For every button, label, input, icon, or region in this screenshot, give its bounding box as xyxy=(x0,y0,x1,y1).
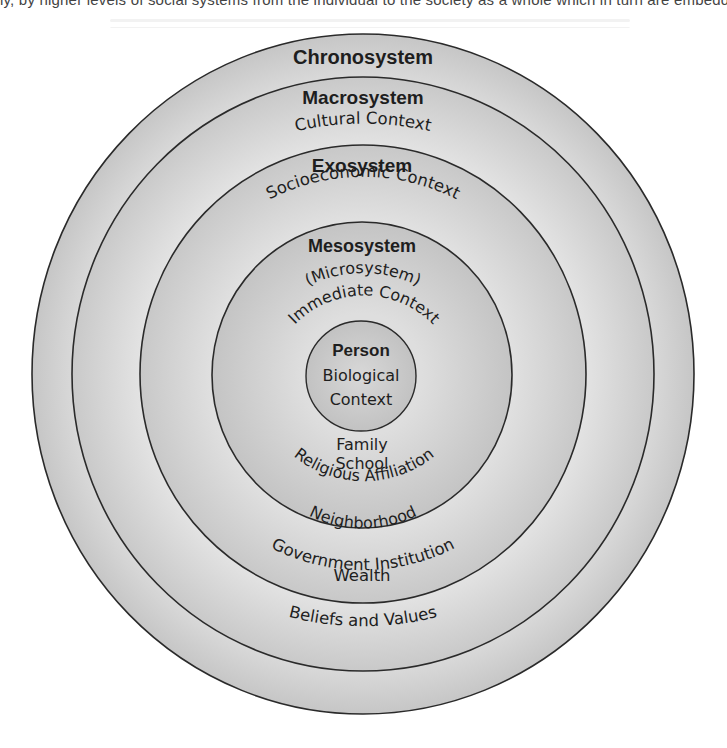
family-label: Family xyxy=(336,435,387,454)
wealth-label: Wealth xyxy=(333,566,390,585)
biological-label: Biological xyxy=(322,366,399,385)
ecological-systems-diagram: Chronosystem Macrosystem Cultural Contex… xyxy=(0,0,727,748)
macrosystem-label: Macrosystem xyxy=(302,87,423,108)
context-label: Context xyxy=(330,390,393,409)
mesosystem-label: Mesosystem xyxy=(308,236,416,256)
person-label: Person xyxy=(332,341,390,360)
chronosystem-label: Chronosystem xyxy=(293,46,433,68)
